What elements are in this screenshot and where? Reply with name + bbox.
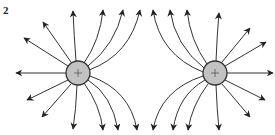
left-charge: [66, 61, 90, 85]
field-line-arrow-icon: [225, 80, 265, 100]
field-line-arrow-icon: [24, 38, 68, 66]
field-line-arrow-icon: [27, 80, 68, 100]
right-charge: [203, 61, 227, 85]
field-line-arrow-icon: [90, 76, 137, 130]
field-line-arrow-icon: [73, 11, 76, 61]
field-line-arrow-icon: [42, 84, 71, 117]
field-line-arrow-icon: [153, 76, 203, 130]
field-line-arrow-icon: [43, 22, 71, 62]
field-line-arrow-icon: [187, 10, 207, 64]
field-lines-diagram: [0, 0, 275, 135]
field-line-arrow-icon: [222, 84, 250, 117]
field-line-arrow-icon: [153, 10, 203, 72]
field-line-arrow-icon: [216, 85, 219, 130]
field-line-arrow-icon: [222, 28, 250, 62]
field-line-arrow-icon: [170, 10, 204, 68]
field-line-arrow-icon: [88, 10, 123, 66]
field-line-arrow-icon: [89, 10, 140, 70]
field-line-arrow-icon: [88, 80, 118, 130]
field-line-arrow-icon: [225, 42, 266, 66]
field-line-arrow-icon: [73, 85, 77, 129]
field-line-arrow-icon: [216, 13, 219, 61]
field-lines: [16, 10, 273, 130]
